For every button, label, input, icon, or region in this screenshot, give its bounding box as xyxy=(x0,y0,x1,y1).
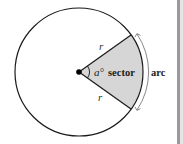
radius-label-upper: r xyxy=(99,40,104,52)
sector-label: sector xyxy=(108,67,135,78)
center-point xyxy=(76,69,82,75)
sector-diagram: r r a° sector arc xyxy=(0,0,183,144)
angle-label: a° xyxy=(94,66,105,78)
arc-label: arc xyxy=(151,67,166,78)
right-border-shadow xyxy=(180,0,183,144)
diagram-canvas: r r a° sector arc xyxy=(0,0,183,144)
radius-label-lower: r xyxy=(98,91,103,103)
